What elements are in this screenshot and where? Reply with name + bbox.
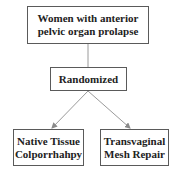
mesh-repair-label: Transvaginal Mesh Repair [104,135,166,161]
randomized-box: Randomized [50,67,127,91]
population-label: Women with anterior pelvic organ prolaps… [38,12,139,38]
population-box: Women with anterior pelvic organ prolaps… [27,6,149,44]
edge-randomized-native-tissue [52,91,88,128]
native-tissue-box: Native Tissue Colporrhahpy [13,129,84,166]
native-tissue-label: Native Tissue Colporrhahpy [15,135,82,161]
randomized-label: Randomized [59,73,118,86]
edge-randomized-mesh-repair [88,91,130,128]
mesh-repair-box: Transvaginal Mesh Repair [100,129,169,166]
